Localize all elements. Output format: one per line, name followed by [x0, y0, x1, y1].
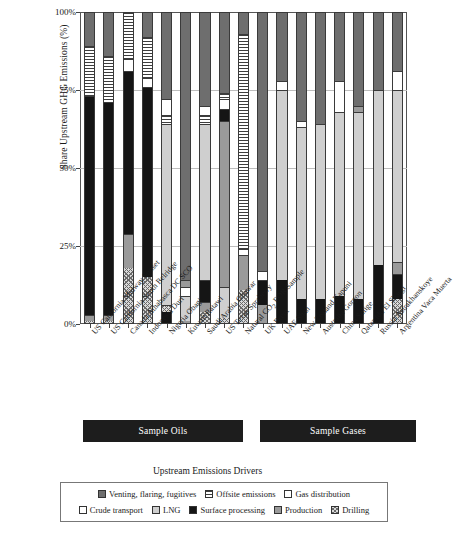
legend-label-production: Production — [285, 505, 322, 515]
bar-segment-venting — [315, 12, 326, 124]
bar-segment-offsite — [103, 56, 114, 103]
bar-segment-production — [392, 262, 403, 274]
stacked-bar[interactable] — [334, 12, 345, 324]
bar-segment-venting — [103, 12, 114, 56]
legend: Venting, flaring, fugitivesOffsite emiss… — [60, 482, 388, 522]
y-tick-label-0: 0% — [64, 319, 76, 329]
bar-segment-venting — [373, 12, 384, 90]
legend-item-crude-transport[interactable]: Crude transport — [79, 505, 143, 515]
bar-segment-venting — [296, 12, 307, 121]
legend-swatch-surface-processing-icon — [189, 506, 197, 514]
bar-slot — [118, 12, 137, 324]
bar-segment-production — [353, 106, 364, 112]
bar-segment-venting — [199, 12, 210, 106]
legend-label-lng: LNG — [163, 505, 180, 515]
bar-segment-gas-distribution — [334, 81, 345, 112]
bar-segment-lng — [373, 90, 384, 265]
bar-segment-crude-transport — [180, 287, 191, 296]
bar-segment-surface-processing — [123, 71, 134, 233]
bar-segment-gas-distribution — [257, 271, 268, 280]
bar-slot — [195, 12, 214, 324]
stacked-bar[interactable] — [199, 12, 210, 324]
bar-segment-gas-distribution — [219, 99, 230, 108]
bar-segment-offsite — [161, 115, 172, 124]
bar-segment-offsite — [84, 46, 95, 96]
bar-segment-gas-distribution — [392, 71, 403, 90]
bar-segment-offsite — [238, 34, 249, 249]
legend-label-venting: Venting, flaring, fugitives — [109, 489, 196, 499]
bar-segment-venting — [238, 12, 249, 34]
legend-item-gas-distribution[interactable]: Gas distribution — [284, 489, 350, 499]
stacked-bar[interactable] — [238, 12, 249, 324]
legend-item-venting[interactable]: Venting, flaring, fugitives — [98, 489, 196, 499]
legend-item-surface-processing[interactable]: Surface processing — [189, 505, 264, 515]
stacked-bar[interactable] — [276, 12, 287, 324]
bar-segment-offsite — [142, 37, 153, 78]
bar-segment-gas-distribution — [276, 81, 287, 90]
bar-segment-venting — [219, 12, 230, 93]
bar-segment-gas-distribution — [238, 249, 249, 255]
legend-item-drilling[interactable]: Drilling — [331, 505, 369, 515]
bar-segment-lng — [353, 112, 364, 299]
bar-segment-venting — [161, 12, 172, 99]
legend-swatch-lng-icon — [152, 506, 160, 514]
legend-swatch-venting-icon — [98, 490, 106, 498]
stacked-bar[interactable] — [315, 12, 326, 324]
group-band-sample-oils: Sample Oils — [83, 420, 243, 442]
legend-label-crude-transport: Crude transport — [90, 505, 143, 515]
stacked-bar[interactable] — [257, 12, 268, 324]
y-axis-title: Share Upstream GHG Emissions (%) — [59, 7, 69, 187]
bar-slot — [253, 12, 272, 324]
legend-title: Upstream Emissions Drivers — [0, 466, 415, 476]
bar-segment-offsite — [219, 93, 230, 99]
legend-item-production[interactable]: Production — [274, 505, 322, 515]
group-band-sample-gases: Sample Gases — [260, 420, 416, 442]
legend-item-offsite[interactable]: Offsite emissions — [205, 489, 275, 499]
bar-segment-venting — [392, 12, 403, 71]
stacked-bar[interactable] — [103, 12, 114, 324]
stacked-bar[interactable] — [353, 12, 364, 324]
bar-segment-offsite — [199, 115, 210, 124]
bar-slot — [388, 12, 407, 324]
bar-segment-lng — [334, 112, 345, 296]
bar-segment-venting — [84, 12, 95, 46]
legend-item-lng[interactable]: LNG — [152, 505, 180, 515]
bar-segment-venting — [334, 12, 345, 81]
bar-segment-lng — [392, 90, 403, 262]
legend-swatch-gas-distribution-icon — [284, 490, 292, 498]
stacked-bar[interactable] — [392, 12, 403, 324]
bar-segment-production — [84, 315, 95, 321]
stacked-bar[interactable] — [84, 12, 95, 324]
legend-row-top: Venting, flaring, fugitivesOffsite emiss… — [65, 486, 383, 502]
stacked-bar[interactable] — [373, 12, 384, 324]
legend-swatch-offsite-icon — [205, 490, 213, 498]
bar-series-container — [80, 12, 407, 324]
bar-slot — [99, 12, 118, 324]
legend-label-drilling: Drilling — [342, 505, 369, 515]
bar-segment-lng — [199, 124, 210, 280]
bar-segment-crude-transport — [296, 121, 307, 127]
bar-segment-venting — [353, 12, 364, 106]
bar-segment-venting — [142, 12, 153, 37]
bar-segment-venting — [180, 12, 191, 280]
stacked-bar[interactable] — [219, 12, 230, 324]
bar-slot — [311, 12, 330, 324]
bar-segment-gas-distribution — [199, 106, 210, 115]
bar-slot — [369, 12, 388, 324]
bar-segment-venting — [257, 12, 268, 271]
bar-segment-surface-processing — [142, 87, 153, 277]
stacked-bar[interactable] — [123, 12, 134, 324]
bar-slot — [215, 12, 234, 324]
bar-segment-surface-processing — [84, 96, 95, 314]
y-tick-label-25: 25% — [60, 241, 77, 251]
bar-segment-gas-distribution — [123, 59, 134, 71]
bar-segment-production — [123, 234, 134, 268]
legend-row-bottom: Crude transportLNGSurface processingProd… — [65, 502, 383, 518]
bar-segment-surface-processing — [219, 109, 230, 121]
legend-label-gas-distribution: Gas distribution — [295, 489, 350, 499]
bar-segment-offsite — [123, 12, 134, 59]
bar-segment-lng — [315, 124, 326, 299]
group-bands: Sample Oils Sample Gases — [80, 420, 407, 442]
bar-slot — [330, 12, 349, 324]
